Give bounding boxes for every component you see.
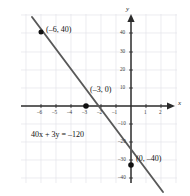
- data-line-series-0: [32, 17, 163, 192]
- data-point-marker: [39, 30, 44, 35]
- coordinate-plane: [0, 0, 190, 196]
- graph-figure: –6 –5 –4 –3 –2 –1 1 2 40 30 20 10 –10 –2…: [0, 0, 190, 196]
- grid-lines: [21, 14, 177, 183]
- data-point-marker: [128, 162, 134, 168]
- y-axis: [127, 14, 134, 183]
- data-point-marker: [83, 103, 89, 109]
